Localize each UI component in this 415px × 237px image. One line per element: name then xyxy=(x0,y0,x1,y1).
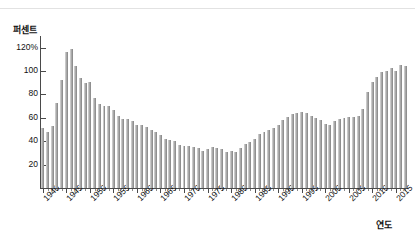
bar xyxy=(46,132,49,188)
bar xyxy=(98,104,101,188)
bar xyxy=(366,92,369,188)
bar xyxy=(295,113,298,188)
bar xyxy=(286,117,289,188)
bar xyxy=(267,130,270,188)
y-tick-mark xyxy=(41,94,46,95)
bar xyxy=(244,144,247,188)
bar xyxy=(206,149,209,188)
y-tick-label: 20 xyxy=(29,159,38,170)
bar xyxy=(385,71,388,188)
bar xyxy=(93,98,96,188)
bar xyxy=(352,117,355,188)
bar xyxy=(145,127,148,188)
bar xyxy=(300,112,303,188)
bar xyxy=(319,120,322,188)
y-tick-mark xyxy=(41,71,46,72)
bar xyxy=(220,149,223,188)
bar xyxy=(178,145,181,188)
bar xyxy=(225,152,228,188)
bar xyxy=(187,146,190,188)
x-tick-minor xyxy=(132,189,133,191)
bar xyxy=(88,82,91,188)
bar xyxy=(107,106,110,188)
bar xyxy=(357,116,360,188)
bar xyxy=(277,125,280,188)
y-tick-label: 80 xyxy=(29,88,38,99)
y-tick: 100 xyxy=(2,71,46,72)
bar xyxy=(55,103,58,188)
bar xyxy=(140,125,143,188)
bar xyxy=(338,119,341,188)
bar xyxy=(65,52,68,188)
y-tick-label: 120% xyxy=(16,42,38,53)
x-tick-minor xyxy=(156,189,157,191)
bar xyxy=(347,117,350,188)
y-tick: 20 xyxy=(2,165,46,166)
bar xyxy=(371,82,374,188)
y-tick-label: 60 xyxy=(29,112,38,123)
bar xyxy=(314,118,317,188)
bar xyxy=(41,128,44,188)
bar xyxy=(117,116,120,188)
bar xyxy=(328,125,331,188)
x-tick-minor xyxy=(391,189,392,191)
bar xyxy=(164,139,167,188)
bar xyxy=(343,118,346,188)
y-tick: 80 xyxy=(2,94,46,95)
page-scan-line xyxy=(0,8,415,9)
bar xyxy=(70,49,73,188)
bar xyxy=(253,139,256,188)
bar xyxy=(248,142,251,188)
x-axis-title: 연도 xyxy=(376,218,392,231)
bar xyxy=(291,114,294,188)
x-tick-minor xyxy=(344,189,345,191)
bar xyxy=(192,147,195,188)
y-tick-label: 100 xyxy=(24,65,38,76)
y-tick-mark xyxy=(41,118,46,119)
bar xyxy=(197,148,200,188)
bar xyxy=(74,66,77,188)
bar xyxy=(201,151,204,188)
bar xyxy=(126,119,129,188)
x-tick-minor xyxy=(85,189,86,191)
bar xyxy=(399,65,402,188)
x-tick-minor xyxy=(250,189,251,191)
bar xyxy=(263,132,266,188)
bar xyxy=(154,132,157,188)
bar xyxy=(112,110,115,188)
bar xyxy=(135,125,138,188)
bar xyxy=(361,109,364,189)
bar xyxy=(79,78,82,188)
bar xyxy=(380,72,383,188)
bar xyxy=(103,106,106,188)
x-tick-minor xyxy=(297,189,298,191)
y-tick: 40 xyxy=(2,141,46,142)
bar xyxy=(60,80,63,188)
bar xyxy=(310,116,313,188)
bar xyxy=(84,83,87,188)
bar xyxy=(215,148,218,188)
y-tick-label: 40 xyxy=(29,135,38,146)
bar xyxy=(168,140,171,188)
bar xyxy=(230,151,233,188)
bar xyxy=(272,128,275,188)
y-tick: 60 xyxy=(2,118,46,119)
plot-area: 120%10080604020 194019451950195519601965… xyxy=(40,36,408,188)
x-tick-minor xyxy=(179,189,180,191)
bar xyxy=(121,119,124,188)
bar xyxy=(211,147,214,188)
bar xyxy=(394,71,397,188)
chart-figure: 퍼센트 연도 120%10080604020 19401945195019551… xyxy=(0,0,415,237)
x-tick-minor xyxy=(203,189,204,191)
bar xyxy=(131,121,134,188)
bar xyxy=(375,77,378,188)
y-tick: 120% xyxy=(2,48,46,49)
bar xyxy=(305,113,308,188)
bar xyxy=(173,141,176,188)
y-axis-title: 퍼센트 xyxy=(13,23,36,36)
bar xyxy=(324,124,327,188)
bar xyxy=(51,126,54,188)
bar xyxy=(239,148,242,188)
y-tick-mark xyxy=(41,48,46,49)
bar xyxy=(390,68,393,188)
